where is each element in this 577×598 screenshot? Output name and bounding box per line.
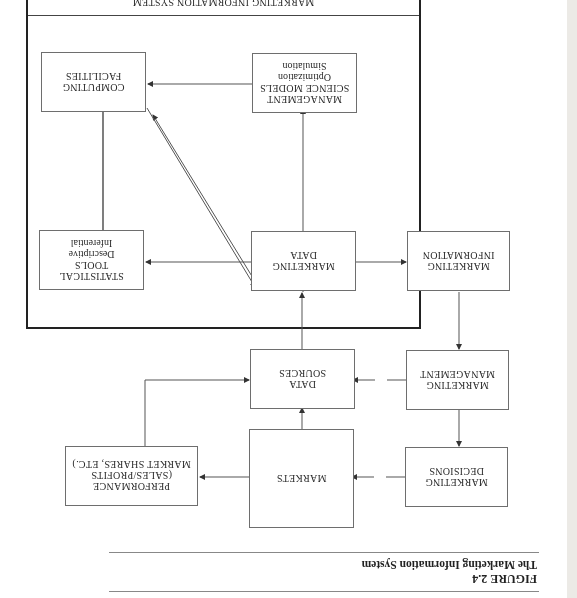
box-label: MARKETING xyxy=(425,477,488,488)
box-label: PERFORMANCE xyxy=(93,482,170,493)
box-label: MANAGEMENT xyxy=(420,369,495,380)
statistical-tools-box: STATISTICAL TOOLS Descriptive Inferentia… xyxy=(39,230,144,290)
box-label: COMPUTING xyxy=(62,82,124,93)
box-label: SOURCES xyxy=(279,368,326,379)
marketing-management-box: MARKETING MANAGEMENT xyxy=(406,350,509,410)
caption-rule-bottom xyxy=(109,552,539,553)
data-sources-box: DATA SOURCES xyxy=(250,349,355,409)
box-label: INFORMATION xyxy=(422,250,494,261)
computing-facilities-box: COMPUTING FACILITIES xyxy=(41,52,146,112)
box-sublabel: Inferential xyxy=(71,238,113,249)
management-science-models-box: MANAGEMENT SCIENCE MODELS Optimization S… xyxy=(252,53,357,113)
figure-number: FIGURE 2.4 xyxy=(472,571,537,586)
box-label: MANAGEMENT xyxy=(267,94,342,105)
markets-box: MARKETS xyxy=(249,429,354,528)
box-label: MARKETING xyxy=(426,380,489,391)
box-label: DATA xyxy=(289,379,316,390)
box-label: TOOLS xyxy=(75,260,109,271)
box-label: MARKETING xyxy=(272,261,335,272)
marketing-data-box: MARKETING DATA xyxy=(251,231,356,291)
marketing-information-box: MARKETING INFORMATION xyxy=(407,231,510,291)
box-label: (SALES/PROFITS xyxy=(91,471,172,482)
box-label: MARKETS xyxy=(277,473,327,484)
box-label: FACILITIES xyxy=(66,71,122,82)
box-sublabel: Descriptive xyxy=(68,249,114,260)
box-sublabel: Simulation xyxy=(283,61,327,72)
box-sublabel: Optimization xyxy=(278,72,331,83)
caption-rule-top xyxy=(109,591,539,592)
performance-box: PERFORMANCE (SALES/PROFITS MARKET SHARES… xyxy=(65,446,198,506)
figure-caption: The Marketing Information System xyxy=(362,559,537,571)
box-label: MARKET SHARES, ETC.) xyxy=(72,460,191,471)
box-label: DECISIONS xyxy=(429,466,484,477)
figure-page: MARKETING INFORMATION SYSTEM xyxy=(0,0,577,598)
box-label: STATISTICAL xyxy=(59,271,124,282)
marketing-decisions-box: MARKETING DECISIONS xyxy=(405,447,508,507)
box-label: MARKETING xyxy=(427,261,490,272)
box-label: SCIENCE MODELS xyxy=(260,83,349,94)
box-label: DATA xyxy=(290,250,317,261)
